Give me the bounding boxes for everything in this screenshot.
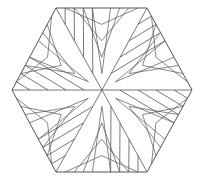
pattern-line [143,24,157,65]
pattern-line [116,41,166,82]
pattern-line [30,57,84,90]
pattern-line [156,57,188,82]
pattern-line [47,139,74,155]
pattern-line [116,98,175,123]
pattern-line [25,106,75,114]
pattern-line [30,98,89,123]
pattern-line [102,8,111,74]
pattern-line [16,82,30,90]
pattern-line [47,115,61,156]
pattern-line [38,41,88,82]
pattern-line [102,8,138,24]
pattern-line [43,33,75,74]
pattern-line [116,98,166,139]
pattern-line [21,74,48,90]
pattern-line [83,123,102,172]
pattern-line [21,106,61,114]
pattern-line [102,8,120,57]
pattern-line [116,57,175,82]
pattern-line [16,57,47,82]
pattern-line [92,8,102,74]
pattern-line [92,106,102,172]
pattern-line [38,98,88,139]
hexagon-pattern [0,0,205,182]
pattern-line [143,115,157,156]
pattern-line [102,8,129,41]
pattern-line [47,24,61,65]
pattern-line [129,65,179,73]
pattern-line [30,57,89,82]
pattern-line [102,106,111,172]
pattern-line [174,90,188,98]
pattern-line [102,139,129,172]
pattern-line [16,98,47,123]
pattern-line [74,8,102,41]
pattern-line [156,98,188,123]
pattern-line [65,156,102,172]
pattern-line [120,90,174,123]
pattern-line [143,65,184,73]
pattern-line [43,106,75,147]
pattern-line [74,139,102,172]
pattern-line [156,90,183,106]
